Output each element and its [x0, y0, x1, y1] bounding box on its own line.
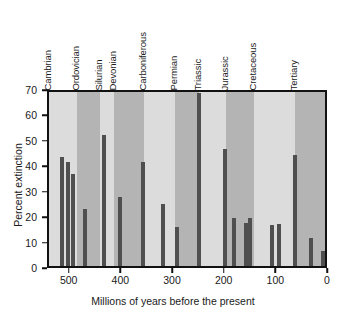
extinction-bar	[197, 93, 201, 266]
x-tick-label: 300	[163, 275, 181, 286]
x-axis: 5004003002001000	[47, 268, 327, 292]
x-tick-mark	[120, 268, 122, 273]
x-tick-label: 500	[60, 275, 78, 286]
extinction-bar	[223, 149, 227, 266]
x-tick-mark	[275, 268, 277, 273]
extinction-bar	[248, 218, 252, 266]
extinction-bar	[66, 162, 70, 266]
y-tick-mark	[42, 140, 47, 142]
period-band	[144, 92, 175, 266]
x-tick-label: 0	[324, 275, 330, 286]
period-label: Cretaceous	[248, 42, 258, 90]
x-tick-mark	[171, 268, 173, 273]
y-tick-label: 30	[25, 186, 37, 197]
x-tick-mark	[223, 268, 225, 273]
plot-area	[47, 90, 327, 268]
extinction-bar	[83, 209, 87, 266]
period-band	[77, 92, 100, 266]
extinction-bar	[293, 155, 297, 266]
extinction-bar	[321, 251, 325, 266]
extinction-bar	[141, 162, 145, 266]
y-tick-mark	[42, 166, 47, 168]
period-label: Permian	[168, 55, 178, 90]
extinction-bar	[118, 197, 122, 266]
y-tick-mark	[42, 89, 47, 91]
extinction-bar	[175, 227, 179, 266]
y-tick-mark	[42, 115, 47, 117]
x-tick-mark	[68, 268, 70, 273]
extinction-bar	[102, 135, 106, 266]
extinction-bar	[232, 218, 236, 266]
period-label: Triassic	[193, 58, 203, 90]
period-label: Cambrian	[43, 50, 53, 90]
extinction-bar	[161, 204, 165, 266]
x-tick-label: 200	[215, 275, 233, 286]
extinction-bar	[309, 238, 313, 266]
x-tick-label: 100	[267, 275, 285, 286]
period-label: Devonian	[108, 51, 118, 90]
period-label: Tertiary	[289, 60, 299, 90]
y-tick-label: 60	[25, 110, 37, 121]
period-label-layer: CambrianOrdovicianSilurianDevonianCarbon…	[47, 0, 327, 90]
y-tick-label: 50	[25, 136, 37, 147]
x-axis-title: Millions of years before the present	[0, 295, 346, 307]
y-tick-label: 70	[25, 85, 37, 96]
period-label: Carboniferous	[137, 32, 147, 90]
extinction-bar	[71, 174, 75, 266]
extinction-bar	[277, 224, 281, 266]
extinction-bar	[60, 157, 64, 266]
y-tick-mark	[42, 216, 47, 218]
extinction-bar	[270, 225, 274, 266]
y-tick-label: 20	[25, 212, 37, 223]
x-tick-mark	[326, 268, 328, 273]
y-tick-mark	[42, 242, 47, 244]
period-label: Jurassic	[219, 56, 229, 90]
period-band	[254, 92, 295, 266]
x-tick-label: 400	[112, 275, 130, 286]
y-axis-title: Percent extinction	[12, 115, 24, 255]
y-tick-label: 10	[25, 237, 37, 248]
y-tick-label: 40	[25, 161, 37, 172]
y-tick-label: 0	[31, 263, 37, 274]
extinction-chart-figure: CambrianOrdovicianSilurianDevonianCarbon…	[0, 0, 346, 321]
y-tick-mark	[42, 191, 47, 193]
period-band	[199, 92, 225, 266]
period-label: Silurian	[93, 59, 103, 90]
period-label: Ordovician	[70, 46, 80, 90]
